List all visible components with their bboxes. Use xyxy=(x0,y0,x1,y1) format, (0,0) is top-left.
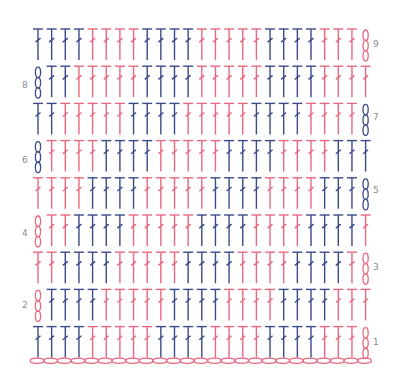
double-crochet-icon xyxy=(115,141,125,172)
double-crochet-icon xyxy=(156,141,166,172)
double-crochet-icon xyxy=(279,252,289,283)
turning-chain-icon xyxy=(363,253,368,284)
double-crochet-icon xyxy=(333,252,343,283)
double-crochet-icon xyxy=(292,215,302,246)
double-crochet-icon xyxy=(251,252,261,283)
double-crochet-icon xyxy=(33,327,43,358)
double-crochet-icon xyxy=(115,66,125,97)
double-crochet-icon xyxy=(197,215,207,246)
double-crochet-icon xyxy=(265,103,275,134)
double-crochet-icon xyxy=(361,66,371,97)
double-crochet-icon xyxy=(210,252,220,283)
double-crochet-icon xyxy=(265,178,275,209)
double-crochet-icon xyxy=(88,29,98,60)
double-crochet-icon xyxy=(156,103,166,134)
double-crochet-icon xyxy=(142,252,152,283)
double-crochet-icon xyxy=(129,178,139,209)
double-crochet-icon xyxy=(129,327,139,358)
double-crochet-icon xyxy=(60,252,70,283)
double-crochet-icon xyxy=(142,327,152,358)
double-crochet-icon xyxy=(101,327,111,358)
double-crochet-icon xyxy=(170,103,180,134)
double-crochet-icon xyxy=(306,289,316,320)
double-crochet-icon xyxy=(210,103,220,134)
double-crochet-icon xyxy=(251,103,261,134)
double-crochet-icon xyxy=(183,327,193,358)
double-crochet-icon xyxy=(320,141,330,172)
double-crochet-icon xyxy=(238,252,248,283)
double-crochet-icon xyxy=(47,29,57,60)
double-crochet-icon xyxy=(88,327,98,358)
double-crochet-icon xyxy=(292,103,302,134)
double-crochet-icon xyxy=(74,327,84,358)
double-crochet-icon xyxy=(101,103,111,134)
double-crochet-icon xyxy=(292,289,302,320)
double-crochet-icon xyxy=(156,327,166,358)
double-crochet-icon xyxy=(170,66,180,97)
double-crochet-icon xyxy=(74,29,84,60)
double-crochet-icon xyxy=(224,327,234,358)
double-crochet-icon xyxy=(251,289,261,320)
double-crochet-icon xyxy=(265,252,275,283)
double-crochet-icon xyxy=(183,252,193,283)
double-crochet-icon xyxy=(238,29,248,60)
double-crochet-icon xyxy=(115,103,125,134)
double-crochet-icon xyxy=(224,252,234,283)
double-crochet-icon xyxy=(238,66,248,97)
double-crochet-icon xyxy=(306,141,316,172)
double-crochet-icon xyxy=(279,29,289,60)
double-crochet-icon xyxy=(142,29,152,60)
double-crochet-icon xyxy=(320,178,330,209)
double-crochet-icon xyxy=(347,327,357,358)
turning-chain-icon xyxy=(35,290,40,321)
double-crochet-icon xyxy=(101,215,111,246)
double-crochet-icon xyxy=(170,178,180,209)
double-crochet-icon xyxy=(60,178,70,209)
double-crochet-icon xyxy=(347,178,357,209)
double-crochet-icon xyxy=(320,66,330,97)
double-crochet-icon xyxy=(347,66,357,97)
row-label-2: 2 xyxy=(22,300,28,310)
double-crochet-icon xyxy=(238,178,248,209)
double-crochet-icon xyxy=(156,29,166,60)
double-crochet-icon xyxy=(47,215,57,246)
double-crochet-icon xyxy=(60,327,70,358)
double-crochet-icon xyxy=(347,215,357,246)
double-crochet-icon xyxy=(238,103,248,134)
double-crochet-icon xyxy=(197,66,207,97)
row-label-8: 8 xyxy=(22,80,28,90)
double-crochet-icon xyxy=(129,66,139,97)
turning-chain-icon xyxy=(35,142,40,173)
double-crochet-icon xyxy=(320,289,330,320)
double-crochet-icon xyxy=(183,215,193,246)
row-label-1: 1 xyxy=(373,337,379,347)
double-crochet-icon xyxy=(156,252,166,283)
double-crochet-icon xyxy=(251,141,261,172)
double-crochet-icon xyxy=(279,141,289,172)
row-label-9: 9 xyxy=(373,39,379,49)
double-crochet-icon xyxy=(306,178,316,209)
double-crochet-icon xyxy=(279,103,289,134)
double-crochet-icon xyxy=(320,215,330,246)
double-crochet-icon xyxy=(101,252,111,283)
double-crochet-icon xyxy=(224,289,234,320)
double-crochet-icon xyxy=(238,327,248,358)
double-crochet-icon xyxy=(224,29,234,60)
double-crochet-icon xyxy=(47,66,57,97)
double-crochet-icon xyxy=(88,178,98,209)
double-crochet-icon xyxy=(306,66,316,97)
double-crochet-icon xyxy=(320,327,330,358)
turning-chain-icon xyxy=(363,179,368,210)
double-crochet-icon xyxy=(47,327,57,358)
double-crochet-icon xyxy=(142,178,152,209)
double-crochet-icon xyxy=(238,141,248,172)
double-crochet-icon xyxy=(279,327,289,358)
double-crochet-icon xyxy=(115,178,125,209)
double-crochet-icon xyxy=(347,29,357,60)
double-crochet-icon xyxy=(183,178,193,209)
double-crochet-icon xyxy=(170,141,180,172)
row-label-3: 3 xyxy=(373,262,379,272)
double-crochet-icon xyxy=(47,103,57,134)
double-crochet-icon xyxy=(60,66,70,97)
double-crochet-icon xyxy=(88,252,98,283)
